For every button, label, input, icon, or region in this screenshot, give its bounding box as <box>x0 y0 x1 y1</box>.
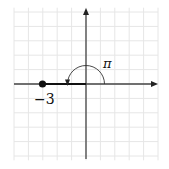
diagram-canvas: π −3 <box>0 0 169 169</box>
angle-arrow-icon <box>65 80 70 87</box>
point-label: −3 <box>34 91 55 107</box>
point-marker <box>39 80 46 87</box>
angle-label: π <box>102 56 112 71</box>
x-axis-arrow-icon <box>151 81 158 87</box>
